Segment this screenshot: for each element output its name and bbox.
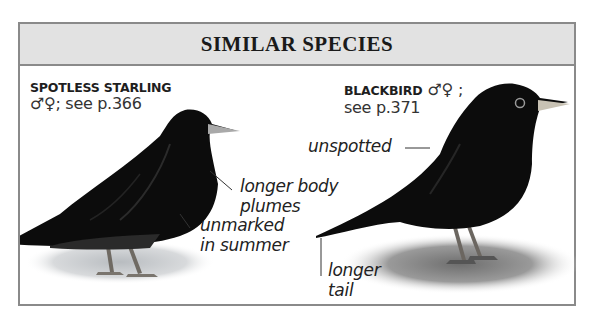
annotation-line: unspotted xyxy=(308,136,391,156)
annotation-line: in summer xyxy=(200,235,288,255)
annotation-line: tail xyxy=(328,280,380,300)
annotation-unspotted: unspotted xyxy=(308,136,391,156)
annotation-unmarked-in-summer: unmarked in summer xyxy=(200,215,288,255)
similar-species-panel: SIMILAR SPECIES SPOTLESS STARLING ♂♀; se… xyxy=(18,22,576,306)
starling-leader-lines xyxy=(20,24,340,308)
annotation-line: longer xyxy=(328,260,380,280)
annotation-line: unmarked xyxy=(200,215,288,235)
annotation-longer-tail: longer tail xyxy=(328,260,380,300)
